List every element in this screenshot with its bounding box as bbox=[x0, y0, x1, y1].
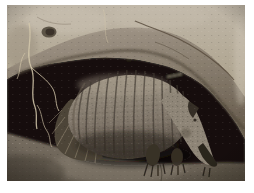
photo-frame bbox=[0, 0, 254, 193]
armadillo-photo-graphic bbox=[7, 5, 245, 181]
armadillo-photo bbox=[7, 5, 245, 181]
vignette bbox=[7, 5, 245, 181]
